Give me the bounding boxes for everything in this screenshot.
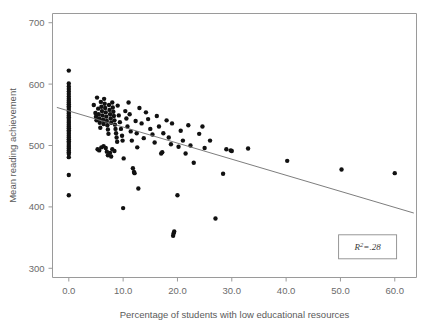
data-point: [137, 106, 141, 110]
x-tick-label: 10.0: [114, 285, 133, 296]
y-axis-ticks: 300400500600700: [29, 17, 53, 274]
data-point: [115, 103, 119, 107]
y-tick-label: 600: [29, 79, 45, 90]
x-tick-label: 40.0: [277, 285, 296, 296]
data-point: [130, 138, 134, 142]
data-point: [123, 109, 127, 113]
data-point: [102, 97, 106, 101]
data-point: [115, 140, 119, 144]
data-point: [119, 127, 123, 131]
data-point: [148, 127, 152, 131]
x-tick-label: 30.0: [223, 285, 242, 296]
data-point: [110, 100, 114, 104]
data-point: [118, 120, 122, 124]
data-point: [99, 105, 103, 109]
x-tick-label: 20.0: [168, 285, 187, 296]
data-point: [170, 121, 174, 125]
data-point: [112, 118, 116, 122]
data-point: [161, 131, 165, 135]
data-point: [113, 127, 117, 131]
y-axis-title: Mean reading achievement: [7, 88, 18, 203]
data-point: [98, 126, 102, 130]
data-point: [133, 119, 137, 123]
data-point: [67, 155, 71, 159]
data-point: [246, 146, 250, 150]
r-squared-label: R2=.28: [354, 241, 382, 252]
data-point: [230, 149, 234, 153]
data-point: [186, 123, 190, 127]
data-point: [98, 121, 102, 125]
data-point: [106, 132, 110, 136]
data-point: [224, 147, 228, 151]
data-point: [111, 105, 115, 109]
chart-canvas: 300400500600700 0.010.020.030.040.050.06…: [0, 0, 435, 331]
y-tick-label: 300: [29, 263, 45, 274]
data-point: [175, 193, 179, 197]
data-point: [126, 100, 130, 104]
data-point: [101, 122, 105, 126]
data-point: [136, 186, 140, 190]
data-point: [213, 216, 217, 220]
y-tick-label: 400: [29, 201, 45, 212]
data-points-layer: [67, 68, 397, 238]
x-axis-ticks: 0.010.020.030.040.050.060.0: [62, 278, 404, 296]
data-point: [67, 68, 71, 72]
data-point: [99, 100, 103, 104]
data-point: [124, 116, 128, 120]
data-point: [112, 114, 116, 118]
data-point: [139, 121, 143, 125]
data-point: [192, 160, 196, 164]
data-point: [127, 112, 131, 116]
data-point: [114, 135, 118, 139]
data-point: [103, 106, 107, 110]
x-axis-title: Percentage of students with low educatio…: [120, 309, 350, 320]
data-point: [176, 145, 180, 149]
data-point: [67, 173, 71, 177]
data-point: [106, 127, 110, 131]
data-point: [120, 138, 124, 142]
data-point: [155, 114, 159, 118]
data-point: [167, 135, 171, 139]
data-point: [112, 149, 116, 153]
data-point: [164, 118, 168, 122]
data-point: [109, 154, 113, 158]
data-point: [208, 138, 212, 142]
y-tick-label: 700: [29, 17, 45, 28]
data-point: [146, 117, 150, 121]
data-point: [121, 156, 125, 160]
y-tick-label: 500: [29, 140, 45, 151]
data-point: [202, 146, 206, 150]
data-point: [221, 172, 225, 176]
data-point: [181, 138, 185, 142]
data-point: [104, 114, 108, 118]
data-point: [102, 102, 106, 106]
data-point: [100, 113, 104, 117]
data-point: [200, 124, 204, 128]
data-point: [105, 123, 109, 127]
data-point: [169, 142, 173, 146]
data-point: [172, 229, 176, 233]
data-point: [92, 103, 96, 107]
data-point: [104, 110, 108, 114]
data-point: [393, 171, 397, 175]
data-point: [197, 132, 201, 136]
r-squared-annotation: R2=.28: [339, 235, 397, 259]
data-point: [132, 171, 136, 175]
x-tick-label: 0.0: [62, 285, 75, 296]
data-point: [114, 131, 118, 135]
data-point: [67, 193, 71, 197]
data-point: [179, 129, 183, 133]
data-point: [339, 167, 343, 171]
data-point: [100, 109, 104, 113]
data-point: [135, 145, 139, 149]
scatter-plot-figure: 300400500600700 0.010.020.030.040.050.06…: [0, 0, 435, 331]
data-point: [96, 112, 100, 116]
data-point: [183, 151, 187, 155]
data-point: [117, 113, 121, 117]
data-point: [157, 124, 161, 128]
data-point: [95, 95, 99, 99]
data-point: [144, 110, 148, 114]
x-tick-label: 60.0: [386, 285, 405, 296]
regression-trendline: [57, 107, 414, 213]
data-point: [142, 136, 146, 140]
